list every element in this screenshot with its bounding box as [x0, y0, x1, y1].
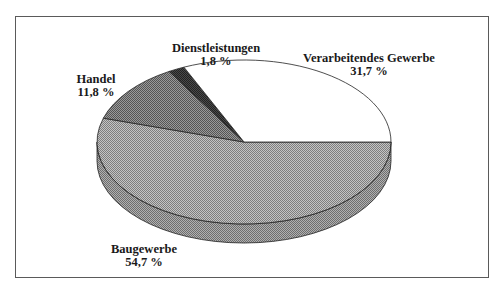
label-handel: Handel 11,8 %: [77, 73, 116, 99]
label-baugewerbe: Baugewerbe 54,7 %: [111, 243, 177, 269]
label-value: 11,8 %: [77, 86, 116, 99]
label-value: 1,8 %: [172, 55, 260, 68]
label-value: 31,7 %: [303, 65, 435, 78]
label-dienstleistungen: Dienstleistungen 1,8 %: [172, 42, 260, 68]
label-verarbeitendes-gewerbe: Verarbeitendes Gewerbe 31,7 %: [303, 52, 435, 78]
label-value: 54,7 %: [111, 256, 177, 269]
pie-top-face: [97, 60, 391, 224]
